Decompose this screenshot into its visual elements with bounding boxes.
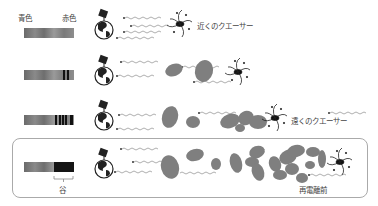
far-quasar-label: 遠くのクエーサー [291,115,347,126]
reionization-label: 再電離前 [299,184,327,195]
quasar-icon [0,0,378,206]
near-quasar-label: 近くのクエーサー [197,20,253,31]
